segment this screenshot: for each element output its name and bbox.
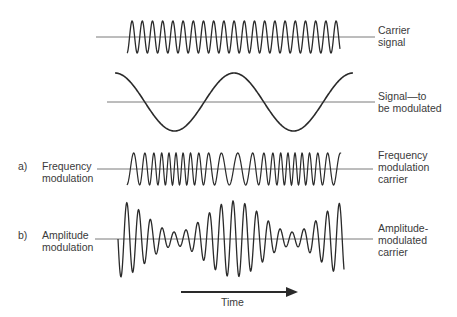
label-line: carrier — [378, 246, 428, 258]
modulating-signal-label: Signal—to be modulated — [378, 90, 442, 114]
label-line: modulation — [42, 241, 93, 253]
label-line: Frequency — [378, 149, 429, 161]
label-line: modulation — [42, 172, 93, 184]
label-line: be modulated — [378, 102, 442, 114]
label-line: modulation — [378, 161, 429, 173]
label-line: modulated — [378, 234, 428, 246]
label-line: Amplitude- — [378, 222, 428, 234]
time-axis-label: Time — [221, 296, 244, 308]
am-carrier-label: Amplitude- modulated carrier — [378, 222, 428, 258]
label-line: Frequency — [42, 160, 93, 172]
fm-left-label: Frequency modulation — [42, 160, 93, 184]
am-marker: b) — [18, 229, 27, 241]
am-left-label: Amplitude modulation — [42, 229, 93, 253]
fm-carrier-label: Frequency modulation carrier — [378, 149, 429, 185]
label-line: Amplitude — [42, 229, 93, 241]
label-line: carrier — [378, 173, 429, 185]
label-line: Signal—to — [378, 90, 442, 102]
label-line: signal — [378, 36, 410, 48]
carrier-label: Carrier signal — [378, 24, 410, 48]
fm-marker: a) — [18, 160, 27, 172]
label-line: Carrier — [378, 24, 410, 36]
